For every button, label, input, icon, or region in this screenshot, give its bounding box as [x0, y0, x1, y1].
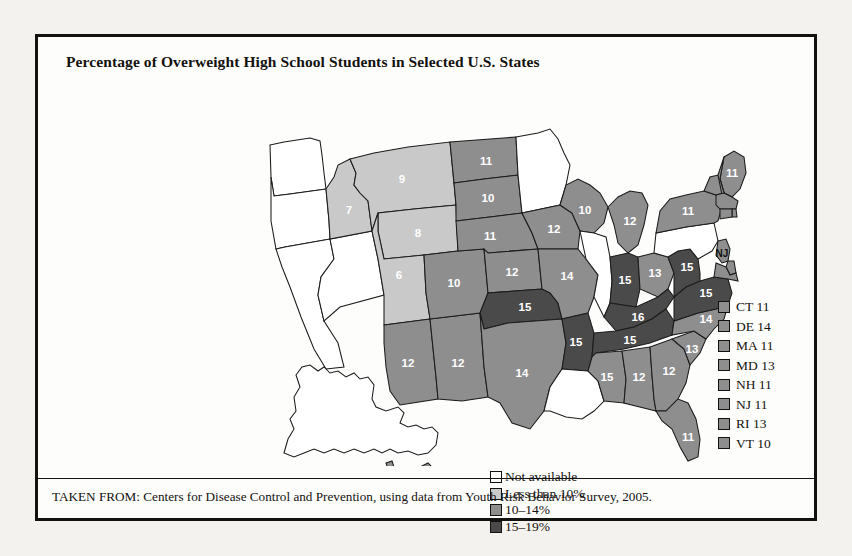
value-label-NY: 11 [682, 205, 695, 217]
value-label-TN: 15 [624, 334, 637, 346]
value-label-UT: 6 [396, 269, 402, 281]
us-map-svg: 9 7 8 6 12 12 10 11 10 11 12 15 14 12 14… [38, 81, 814, 466]
small-state-swatch-ma-icon [718, 340, 730, 352]
small-state-item-ri: RI 13 [718, 414, 775, 434]
small-state-item-nh: NH 11 [718, 375, 775, 395]
caption-divider [38, 478, 814, 479]
small-state-label-vt: VT 10 [736, 434, 771, 454]
small-state-label-ma: MA 11 [736, 336, 773, 356]
value-label-VA: 15 [700, 287, 713, 299]
state-HI[interactable] [420, 463, 434, 466]
infographic-page: Percentage of Overweight High School Stu… [0, 0, 852, 556]
value-label-SC: 13 [686, 343, 699, 355]
small-states-legend: CT 11 DE 14 MA 11 MD 13 NH 11 [718, 297, 775, 453]
small-state-item-nj: NJ 11 [718, 395, 775, 415]
value-label-NE: 11 [484, 230, 497, 242]
value-label-IA: 12 [548, 223, 561, 235]
value-label-SD: 10 [482, 192, 495, 204]
small-state-item-ma: MA 11 [718, 336, 775, 356]
legend-swatch-10-to-14-icon [490, 504, 502, 516]
figure-title: Percentage of Overweight High School Stu… [66, 53, 540, 71]
state-CT[interactable] [720, 209, 732, 219]
value-label-ME: 11 [726, 167, 739, 179]
small-state-swatch-md-icon [718, 359, 730, 371]
small-state-swatch-ct-icon [718, 301, 730, 313]
small-state-label-nh: NH 11 [736, 375, 772, 395]
value-label-AZ: 12 [402, 357, 415, 369]
value-label-NC: 14 [700, 313, 713, 325]
small-state-label-de: DE 14 [736, 317, 771, 337]
value-label-CO: 10 [448, 277, 461, 289]
value-label-GA: 12 [663, 365, 676, 377]
value-label-WI: 10 [579, 204, 592, 216]
state-MA[interactable] [716, 193, 738, 209]
value-label-MS: 15 [601, 371, 614, 383]
small-state-swatch-vt-icon [718, 437, 730, 449]
small-state-label-nj: NJ 11 [736, 395, 767, 415]
legend-label-15-to-19: 15–19% [505, 519, 550, 536]
small-state-swatch-ri-icon [718, 418, 730, 430]
small-state-item-md: MD 13 [718, 356, 775, 376]
hawaii-island-kauai [386, 461, 394, 466]
value-label-AL: 12 [633, 371, 646, 383]
legend-item-15-to-19: 15–19% [490, 519, 584, 536]
value-label-KS: 12 [506, 266, 519, 278]
value-label-MT: 9 [399, 173, 405, 185]
state-RI[interactable] [732, 209, 737, 217]
value-label-IN: 15 [619, 274, 632, 286]
small-state-label-md: MD 13 [736, 356, 775, 376]
us-choropleth-map: 9 7 8 6 12 12 10 11 10 11 12 15 14 12 14… [38, 81, 814, 466]
small-state-item-de: DE 14 [718, 317, 775, 337]
small-state-label-ct: CT 11 [736, 297, 769, 317]
value-label-ID: 7 [346, 204, 352, 216]
legend-swatch-15-to-19-icon [490, 521, 502, 533]
value-label-ND: 11 [480, 155, 493, 167]
value-label-KY: 16 [632, 311, 645, 323]
value-label-MI: 12 [624, 215, 637, 227]
small-state-swatch-nh-icon [718, 379, 730, 391]
value-label-MO: 14 [561, 270, 574, 282]
value-label-TX: 14 [516, 367, 529, 379]
source-caption: TAKEN FROM: Centers for Disease Control … [52, 489, 802, 506]
small-state-swatch-nj-icon [718, 398, 730, 410]
value-label-WY: 8 [415, 227, 422, 239]
value-label-OK: 15 [519, 301, 532, 313]
small-state-item-ct: CT 11 [718, 297, 775, 317]
state-WA[interactable] [270, 138, 326, 196]
small-state-swatch-de-icon [718, 320, 730, 332]
value-label-OH: 13 [649, 267, 662, 279]
small-state-label-ri: RI 13 [736, 414, 766, 434]
map-annotation-NJ: NJ [716, 248, 729, 259]
small-state-item-vt: VT 10 [718, 434, 775, 454]
value-label-AR: 15 [570, 336, 583, 348]
map-figure-frame: Percentage of Overweight High School Stu… [35, 34, 817, 521]
value-label-FL: 11 [682, 431, 695, 443]
value-label-NM: 12 [452, 357, 465, 369]
value-label-WV: 15 [681, 261, 694, 273]
